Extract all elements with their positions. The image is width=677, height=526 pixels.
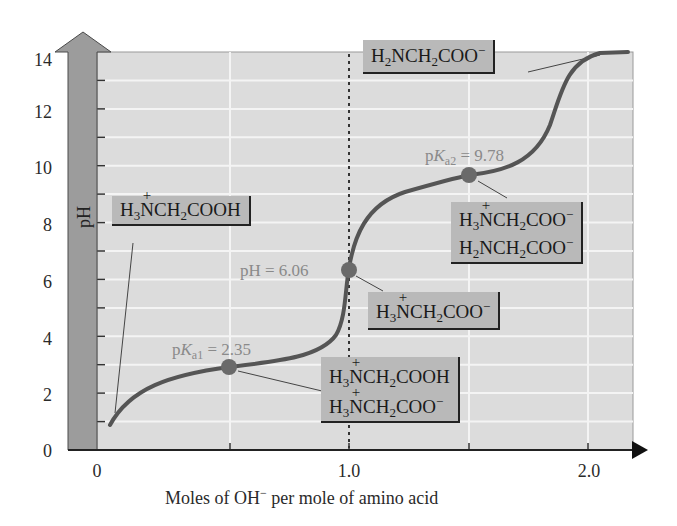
species-box-zwitterion-anion: H3NCH2COO− H2NCH2COO− xyxy=(451,202,583,264)
svg-text:14: 14 xyxy=(34,50,52,70)
x-tick-labels: 0 1.0 2.0 xyxy=(93,461,601,481)
pka2-label: pKa2 = 9.78 xyxy=(425,146,504,168)
species-box-cationic: H3NCH2COOH xyxy=(112,196,251,226)
svg-text:8: 8 xyxy=(43,215,52,235)
svg-text:2.0: 2.0 xyxy=(578,461,601,481)
pka1-point xyxy=(221,359,237,375)
isoelectric-point xyxy=(341,262,357,278)
svg-text:12: 12 xyxy=(34,102,52,122)
svg-text:1.0: 1.0 xyxy=(338,461,361,481)
pka2-point xyxy=(461,167,477,183)
svg-text:0: 0 xyxy=(93,461,102,481)
pka1-label: pKa1 = 2.35 xyxy=(172,340,251,362)
isoelectric-label: pH = 6.06 xyxy=(240,261,309,280)
svg-text:0: 0 xyxy=(43,441,52,461)
y-axis-label: pH xyxy=(74,206,95,228)
x-axis-arrowhead xyxy=(632,441,648,459)
species-box-zwitterion: H3NCH2COO− xyxy=(368,292,500,330)
svg-text:10: 10 xyxy=(34,158,52,178)
y-tick-labels: 14 12 10 8 6 4 2 0 xyxy=(34,50,52,461)
species-box-cation-zwitterion: H3NCH2COOH H3NCH2COO− xyxy=(321,357,460,423)
svg-text:4: 4 xyxy=(43,329,52,349)
svg-text:6: 6 xyxy=(43,272,52,292)
x-axis-label: Moles of OH− per mole of amino acid xyxy=(165,488,438,509)
svg-text:2: 2 xyxy=(43,385,52,405)
species-box-anionic: H2NCH2COO− xyxy=(363,40,495,74)
